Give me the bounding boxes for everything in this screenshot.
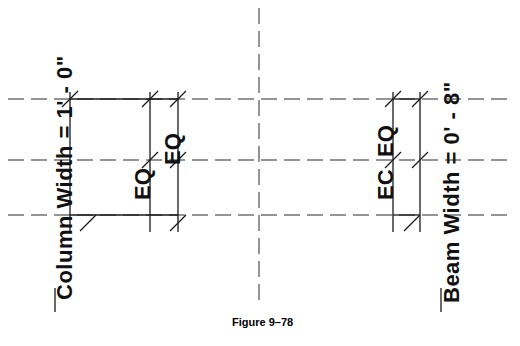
tick-mark (80, 215, 96, 231)
label-eq-inner: EQ (373, 125, 399, 157)
tick-mark (404, 215, 420, 231)
figure-canvas: Column Width = 1' - 0" EQ EQ EC EQ Beam … (0, 0, 520, 346)
dimension-tick-marks (62, 91, 428, 231)
label-beam-width: Beam Width = 0' - 8" (439, 81, 465, 303)
dashed-grid-lines (8, 8, 512, 300)
label-eq-left: EQ (130, 168, 156, 200)
leader-lines (55, 288, 441, 312)
dimension-witness-lines (70, 92, 420, 232)
label-eq-right: EQ (160, 133, 186, 165)
label-column-width: Column Width = 1' - 0" (52, 55, 78, 300)
label-ec-left: EC (373, 169, 399, 200)
figure-caption: Figure 9–78 (232, 316, 293, 328)
dimension-horizontal-extents (70, 99, 420, 215)
